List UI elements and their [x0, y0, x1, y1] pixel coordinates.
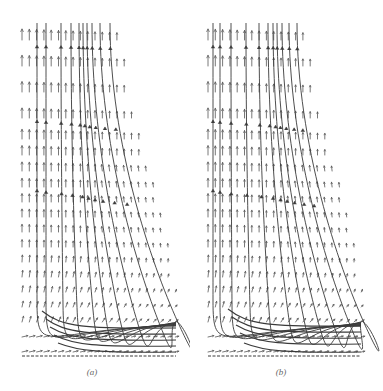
panel-a: (a) — [0, 0, 190, 391]
vector-field-plot-a — [0, 0, 190, 391]
panel-b: (b) — [189, 0, 383, 391]
vector-field-figure: (a) (b) — [0, 0, 383, 391]
panel-label-b: (b) — [276, 367, 287, 377]
panel-label-a: (a) — [87, 367, 98, 377]
vector-field-plot-b — [189, 0, 383, 391]
